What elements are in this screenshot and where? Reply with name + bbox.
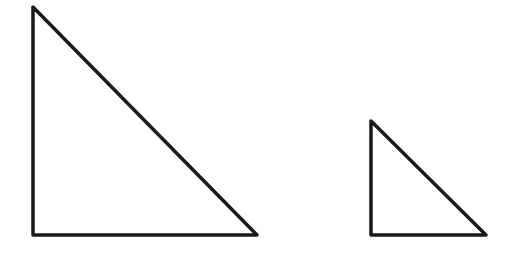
small-right-triangle (371, 121, 486, 235)
large-right-triangle (33, 7, 257, 235)
diagram-canvas (0, 0, 510, 261)
